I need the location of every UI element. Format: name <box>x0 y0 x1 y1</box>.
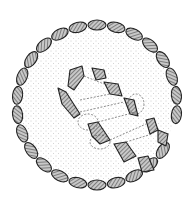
kerb-stone <box>88 180 106 190</box>
cairn-plan-diagram <box>0 0 195 199</box>
kerb-stone <box>88 20 106 30</box>
